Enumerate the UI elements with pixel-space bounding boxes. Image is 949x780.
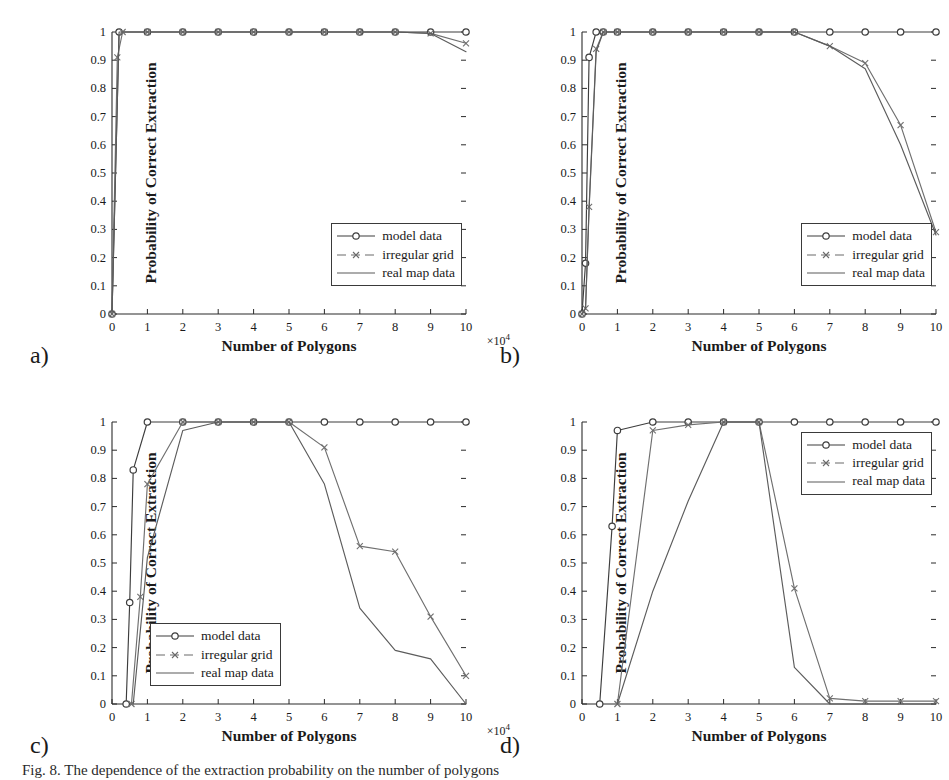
legend-item: model data — [336, 227, 455, 245]
y-tick-label: 0.5 — [560, 166, 576, 181]
legend-label: real map data — [382, 264, 455, 282]
legend-item: real map data — [806, 264, 925, 282]
y-tick-label: 0.5 — [90, 556, 106, 571]
legend-label: model data — [852, 436, 912, 454]
line-marker — [806, 267, 846, 279]
x-tick-label: 6 — [791, 320, 797, 335]
x-tick-label: 3 — [685, 320, 691, 335]
legend-item: model data — [806, 227, 925, 245]
x-tick-label: 3 — [215, 320, 221, 335]
data-point-marker — [897, 419, 903, 425]
legend-item: irregular grid — [155, 646, 274, 664]
y-tick-label: 0.7 — [560, 109, 576, 124]
x-marker — [806, 457, 846, 469]
x-tick-label: 7 — [357, 320, 363, 335]
x-marker — [806, 249, 846, 261]
legend-label: irregular grid — [852, 246, 924, 264]
data-point-marker — [123, 701, 129, 707]
axes-area-a: Probability of Correct Extraction Number… — [112, 32, 466, 314]
x-tick-label: 5 — [286, 320, 292, 335]
data-point-marker — [862, 419, 868, 425]
legend-label: model data — [201, 627, 261, 645]
y-tick-label: 0.4 — [90, 194, 106, 209]
y-tick-label: 0.9 — [560, 53, 576, 68]
x-tick-label: 6 — [321, 710, 327, 725]
axes-area-c: Probability of Correct Extraction Number… — [112, 422, 466, 704]
figure-caption: Fig. 8. The dependence of the extraction… — [22, 762, 499, 779]
y-tick-label: 0.8 — [560, 81, 576, 96]
data-point-marker — [144, 419, 150, 425]
chart-legend: model datairregular gridreal map data — [801, 432, 932, 495]
legend-item: irregular grid — [336, 246, 455, 264]
x-tick-label: 5 — [756, 710, 762, 725]
y-tick-label: 0.8 — [90, 471, 106, 486]
legend-item: irregular grid — [806, 246, 925, 264]
data-point-marker — [862, 60, 868, 66]
x-tick-label: 8 — [862, 320, 868, 335]
y-tick-label: 0.4 — [90, 584, 106, 599]
y-tick-label: 0.1 — [560, 278, 576, 293]
legend-label: model data — [382, 227, 442, 245]
circle-marker — [155, 630, 195, 642]
y-tick-label: 0.9 — [90, 443, 106, 458]
x-tick-label: 8 — [862, 710, 868, 725]
circle-marker — [806, 230, 846, 242]
panel-letter-c: c) — [30, 732, 49, 759]
circle-marker — [336, 230, 376, 242]
y-tick-label: 0.9 — [90, 53, 106, 68]
legend-item: real map data — [336, 264, 455, 282]
x-tick-label: 0 — [109, 320, 115, 335]
legend-label: real map data — [201, 664, 274, 682]
x-tick-label: 5 — [286, 710, 292, 725]
y-tick-label: 0.1 — [90, 668, 106, 683]
y-tick-label: 0 — [100, 307, 106, 322]
axes-area-b: Probability of Correct Extraction Number… — [582, 32, 936, 314]
y-tick-label: 0.1 — [560, 668, 576, 683]
x-tick-label: 8 — [392, 710, 398, 725]
plot-d: Probability of Correct Extraction Number… — [470, 390, 940, 780]
y-tick-label: 1 — [100, 25, 106, 40]
x-tick-label: 10 — [930, 320, 943, 335]
y-tick-label: 0.7 — [90, 109, 106, 124]
y-tick-label: 0 — [570, 697, 576, 712]
data-point-marker — [321, 444, 327, 450]
panel-letter-a: a) — [30, 342, 49, 369]
line-marker — [155, 667, 195, 679]
x-tick-label: 9 — [897, 320, 903, 335]
panel-a: Probability of Correct Extraction Number… — [0, 0, 470, 390]
x-tick-label: 3 — [215, 710, 221, 725]
x-tick-label: 9 — [427, 710, 433, 725]
data-point-marker — [427, 419, 433, 425]
data-point-marker — [593, 29, 599, 35]
x-tick-label: 8 — [392, 320, 398, 335]
chart-legend: model datairregular gridreal map data — [331, 223, 462, 286]
y-tick-label: 1 — [100, 415, 106, 430]
legend-label: irregular grid — [382, 246, 454, 264]
data-point-marker — [614, 427, 620, 433]
line-marker — [806, 476, 846, 488]
data-point-marker — [791, 419, 797, 425]
panel-c: Probability of Correct Extraction Number… — [0, 390, 470, 780]
x-tick-label: 2 — [180, 710, 186, 725]
x-tick-label: 3 — [685, 710, 691, 725]
x-tick-label: 7 — [357, 710, 363, 725]
y-tick-label: 0.7 — [560, 499, 576, 514]
panel-b: Probability of Correct Extraction Number… — [470, 0, 940, 390]
legend-label: irregular grid — [852, 454, 924, 472]
x-tick-label: 9 — [897, 710, 903, 725]
x-axis-label: Number of Polygons — [112, 337, 466, 355]
data-point-marker — [321, 419, 327, 425]
y-tick-label: 1 — [570, 415, 576, 430]
y-tick-label: 0.6 — [560, 527, 576, 542]
x-tick-label: 4 — [250, 320, 256, 335]
x-tick-label: 7 — [827, 710, 833, 725]
x-tick-label: 10 — [930, 710, 943, 725]
x-tick-label: 4 — [720, 710, 726, 725]
y-tick-label: 0.2 — [560, 250, 576, 265]
y-tick-label: 0 — [570, 307, 576, 322]
data-point-marker — [609, 523, 615, 529]
y-tick-label: 0.4 — [560, 584, 576, 599]
x-tick-label: 1 — [144, 710, 150, 725]
y-tick-label: 0.2 — [90, 640, 106, 655]
legend-item: real map data — [155, 664, 274, 682]
